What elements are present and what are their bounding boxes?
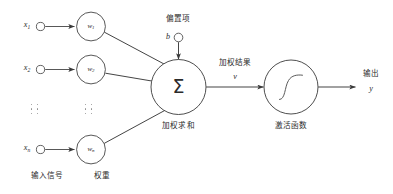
input-label-xn: xn — [24, 144, 30, 153]
neuron-diagram: x1 x2 xn w1 w2 wn 偏置项 b Σ 加权求和 加权结果 v 激活… — [0, 0, 393, 194]
weight-label-wn: wn — [87, 146, 94, 153]
output-symbol: y — [369, 85, 373, 94]
bias-caption: 偏置项 — [166, 15, 191, 23]
weight-caption: 权重 — [94, 172, 110, 180]
weighted-result-symbol: v — [233, 73, 237, 82]
output-caption: 输出 — [363, 70, 379, 78]
weighted-result-caption: 加权结果 — [219, 59, 252, 67]
activation-node — [264, 60, 318, 114]
input-label-x1: x1 — [24, 21, 30, 30]
bias-symbol: b — [166, 33, 170, 42]
input-signal-caption: 输入信号 — [31, 172, 64, 180]
activation-caption: 激活函数 — [275, 122, 308, 130]
summation-symbol: Σ — [172, 77, 184, 97]
input-node-x2 — [36, 65, 44, 73]
input-column-ellipsis — [31, 104, 38, 114]
input-label-x2: x2 — [24, 64, 30, 73]
weight-label-w1: w1 — [87, 23, 94, 30]
summation-caption: 加权求和 — [162, 122, 195, 130]
weight-column-ellipsis — [85, 104, 92, 114]
diagram-vector-layer — [0, 0, 393, 194]
input-node-x1 — [36, 22, 44, 30]
edge-w1-to-sum — [104, 32, 172, 68]
weight-label-w2: w2 — [87, 66, 94, 73]
bias-node — [174, 33, 183, 42]
input-node-xn — [36, 145, 44, 153]
